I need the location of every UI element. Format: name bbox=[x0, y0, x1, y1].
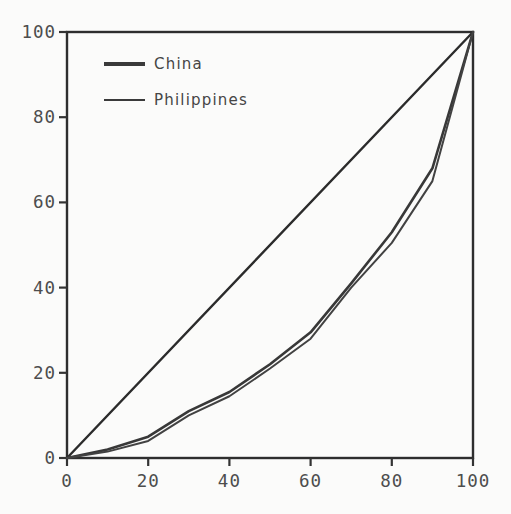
legend-item-china: China bbox=[104, 54, 248, 74]
x-tick-label-20: 20 bbox=[137, 471, 160, 491]
x-tick-label-60: 60 bbox=[299, 471, 322, 491]
chart-legend: China Philippines bbox=[104, 54, 248, 110]
x-tick-label-0: 0 bbox=[61, 471, 73, 491]
y-tick-label-40: 40 bbox=[33, 278, 56, 298]
lorenz-curve-figure: 020406080100020406080100 China Philippin… bbox=[0, 0, 511, 514]
legend-item-philippines: Philippines bbox=[104, 90, 248, 110]
x-tick-label-40: 40 bbox=[218, 471, 241, 491]
y-tick-label-60: 60 bbox=[33, 192, 56, 212]
y-tick-label-80: 80 bbox=[33, 107, 56, 127]
y-tick-label-100: 100 bbox=[21, 22, 56, 42]
china-line-sample bbox=[104, 62, 145, 66]
legend-label-philippines: Philippines bbox=[154, 91, 248, 109]
x-tick-label-100: 100 bbox=[456, 471, 491, 491]
y-tick-label-20: 20 bbox=[33, 363, 56, 383]
philippines-line-sample bbox=[104, 99, 145, 102]
legend-label-china: China bbox=[154, 55, 203, 73]
lorenz-chart-svg: 020406080100020406080100 bbox=[0, 0, 511, 514]
x-tick-label-80: 80 bbox=[380, 471, 403, 491]
y-tick-label-0: 0 bbox=[44, 448, 56, 468]
